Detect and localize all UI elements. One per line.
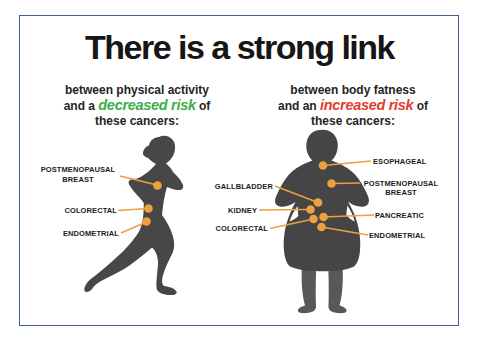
label-colorectal-right: COLORECTAL: [188, 224, 268, 234]
overweight-person-silhouette: [275, 130, 369, 271]
marker-dot-esophageal: [319, 161, 328, 170]
label-colorectal-left: COLORECTAL: [37, 206, 117, 216]
label-postmenopausal-breast-right: POSTMENOPAUSAL BREAST: [361, 179, 441, 198]
marker-dot-endometrial-right: [317, 223, 326, 232]
label-gallbladder: GALLBLADDER: [193, 182, 273, 192]
marker-dot-gallbladder: [314, 198, 323, 207]
label-pancreatic: PANCREATIC: [375, 211, 455, 221]
marker-dot-colorectal-right: [309, 215, 318, 224]
label-kidney: KIDNEY: [177, 206, 257, 216]
leader-line-kidney: [259, 210, 311, 211]
marker-dot-colorectal-left: [144, 204, 153, 213]
marker-dot-endometrial-left: [142, 217, 151, 226]
marker-dot-kidney: [306, 205, 315, 214]
infographic-poster: There is a strong link between physical …: [0, 0, 479, 350]
marker-dot-pancreatic: [319, 213, 328, 222]
label-esophageal: ESOPHAGEAL: [373, 157, 453, 167]
label-endometrial-right: ENDOMETRIAL: [369, 231, 449, 241]
marker-dot-breast-left: [153, 181, 162, 190]
marker-dot-breast-right: [327, 179, 336, 188]
label-endometrial-left: ENDOMETRIAL: [39, 229, 119, 239]
leader-line-colorectal-left: [118, 209, 148, 211]
label-postmenopausal-breast-left: POSTMENOPAUSAL BREAST: [38, 165, 118, 184]
